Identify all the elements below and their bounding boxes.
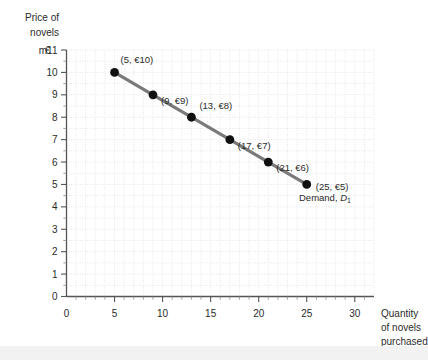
data-point-marker [302, 180, 311, 189]
data-point-label: (21, €6) [276, 162, 309, 173]
data-point-marker [264, 158, 273, 167]
x-axis-title-line-1: Quantity [381, 308, 418, 319]
y-tick-label: 1 [52, 269, 58, 280]
data-point-marker [149, 90, 158, 99]
series-label-demand: Demand, D1 [299, 192, 351, 204]
y-tick-label: 6 [52, 157, 58, 168]
data-point-label: (5, €10) [121, 54, 154, 65]
data-point-label: (9, €9) [161, 95, 188, 106]
data-point-label: (25, €5) [316, 181, 349, 192]
y-tick-label: 4 [52, 201, 58, 212]
x-tick-label: 15 [205, 308, 217, 319]
data-point-label: (17, €7) [238, 140, 271, 151]
x-axis-title-line-2: of novels [381, 322, 421, 333]
y-axis-title-line-2: novels [30, 27, 59, 38]
y-tick-label: 5 [52, 179, 58, 190]
y-tick-label: 2 [52, 246, 58, 257]
y-tick-label: 7 [52, 134, 58, 145]
bottom-band [0, 346, 428, 360]
series-label-text: Demand, D1 [299, 192, 351, 204]
x-tick-label: 0 [64, 308, 70, 319]
y-axis-title-line-1: Price of [25, 12, 59, 23]
x-tick-label: 5 [112, 308, 118, 319]
y-tick-label: 9 [52, 89, 58, 100]
x-tick-label: 10 [157, 308, 169, 319]
y-tick-label: 8 [52, 112, 58, 123]
data-point-label: (13, €8) [199, 100, 232, 111]
data-point-marker [110, 68, 119, 77]
y-tick-label: 0 [52, 291, 58, 302]
x-tick-label: 25 [301, 308, 313, 319]
demand-curve-figure: 012345678910m11 051015202530 (5, €10)(9,… [0, 0, 428, 360]
demand-curve-chart: 012345678910m11 051015202530 (5, €10)(9,… [0, 0, 428, 360]
data-point-marker [187, 113, 196, 122]
data-point-marker [225, 135, 234, 144]
y-tick-label: 10 [46, 67, 58, 78]
x-tick-label: 30 [349, 308, 361, 319]
x-tick-label: 20 [253, 308, 265, 319]
chart-background [0, 0, 428, 360]
y-axis-unit-label: € [45, 45, 51, 56]
y-tick-label: 3 [52, 224, 58, 235]
